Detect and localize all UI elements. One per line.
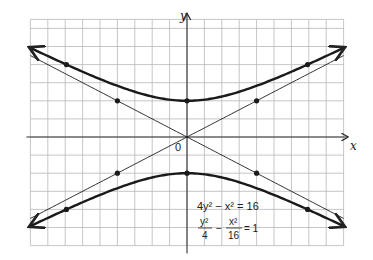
axes [26,14,347,254]
equation-den2: 16 [228,230,240,241]
data-point [64,207,69,212]
equation-den1: 4 [202,230,208,241]
data-point [184,171,189,176]
y-axis-label: y [179,9,187,23]
equation-num1: y² [200,216,209,227]
data-point [115,171,120,176]
equation-rhs: = 1 [244,223,259,234]
origin-label: 0 [175,141,181,153]
data-point [115,98,120,103]
data-point [254,171,259,176]
data-point [305,62,310,67]
equation-standard: 4y² − x² = 16 [197,200,259,212]
equation-num2: x² [229,216,238,227]
hyperbola-graph: y x 0 4y² − x² = 16 y² 4 − x² 16 = 1 [0,0,373,260]
data-point [254,98,259,103]
equation-minus: − [216,223,222,234]
equation-label: 4y² − x² = 16 y² 4 − x² 16 = 1 [196,199,272,243]
data-point [305,207,310,212]
data-point [184,98,189,103]
data-point [64,62,69,67]
x-axis-label: x [350,139,357,153]
